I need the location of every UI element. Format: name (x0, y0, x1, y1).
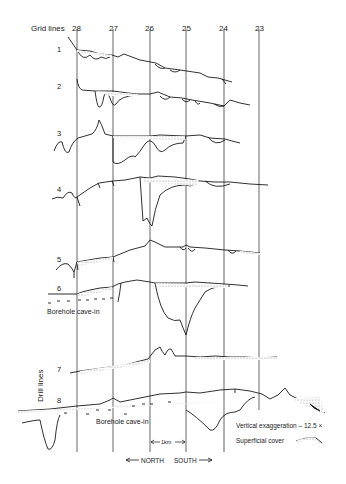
borehole-cave-in-dashes-8 (64, 402, 171, 414)
profile-3 (54, 120, 240, 164)
profile-5-label: 5 (57, 255, 61, 264)
grid-line-28-label: 28 (72, 24, 81, 33)
profile-1-label: 1 (57, 45, 61, 54)
borehole-cave-in-dashes-6 (48, 298, 113, 303)
profile-2-label: 2 (57, 82, 61, 91)
direction-arrows (126, 458, 212, 462)
profile-6-label: 6 (57, 284, 61, 293)
profile-diagram (0, 0, 346, 484)
grid-line-26-label: 26 (145, 24, 154, 33)
vertical-exaggeration-label: Vertical exaggeration – 12.5 × (236, 421, 322, 430)
profile-4-label: 4 (57, 185, 61, 194)
drill-lines-label: Drill lines (36, 370, 45, 402)
profile-7 (70, 347, 277, 374)
grid-line-24-label: 24 (219, 24, 228, 33)
borehole-cave-in-label-8: Borehole cave-in (96, 417, 149, 426)
profile-4 (52, 176, 268, 226)
north-label: NORTH (141, 456, 164, 465)
profile-3-label: 3 (57, 129, 61, 138)
grid-line-27-label: 27 (109, 24, 118, 33)
profile-8-label: 8 (57, 396, 61, 405)
borehole-cave-in-label-6: Borehole cave-in (47, 307, 100, 316)
grid-line-23-label: 23 (255, 24, 264, 33)
profile-5 (56, 240, 260, 278)
superficial-cover-label: Superficial cover (236, 436, 284, 445)
profile-7-label: 7 (57, 365, 61, 374)
scale-bar-label: 1km (161, 438, 171, 447)
south-label: SOUTH (174, 456, 197, 465)
superficial-cover-symbol (296, 438, 322, 443)
grid-line-25-label: 25 (182, 24, 191, 33)
grid-lines-label: Grid lines (31, 24, 65, 33)
